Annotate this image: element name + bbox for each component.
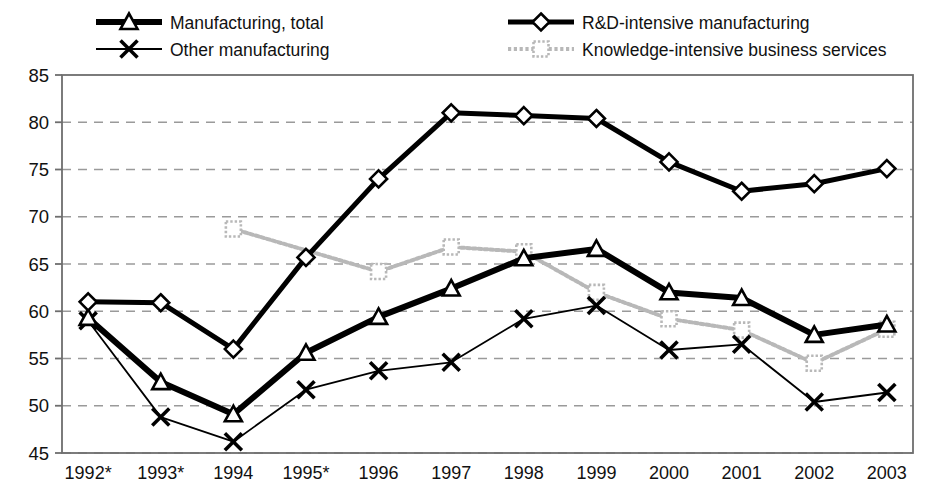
xtick-label-8: 2000 xyxy=(649,463,689,483)
data-point-marker xyxy=(371,264,386,279)
xtick-label-0: 1992* xyxy=(65,463,112,483)
ytick-label-65: 65 xyxy=(28,254,49,275)
data-point-marker xyxy=(534,42,549,57)
xtick-label-4: 1996 xyxy=(359,463,399,483)
ytick-label-50: 50 xyxy=(28,395,49,416)
data-point-marker xyxy=(226,222,241,237)
ytick-label-85: 85 xyxy=(28,65,49,86)
data-point-marker xyxy=(444,239,459,254)
chart-canvas: Manufacturing, totalOther manufacturingR… xyxy=(0,0,939,498)
xtick-label-2: 1994 xyxy=(213,463,253,483)
line-chart: Manufacturing, totalOther manufacturingR… xyxy=(0,0,939,498)
legend-label: Other manufacturing xyxy=(170,40,330,60)
ytick-label-70: 70 xyxy=(28,206,49,227)
xtick-label-1: 1993* xyxy=(137,463,184,483)
xtick-label-11: 2003 xyxy=(867,463,907,483)
xtick-label-3: 1995* xyxy=(282,463,329,483)
data-point-marker xyxy=(734,323,749,338)
xtick-label-7: 1999 xyxy=(576,463,616,483)
legend-label: R&D-intensive manufacturing xyxy=(582,13,810,33)
legend-label: Manufacturing, total xyxy=(170,13,324,33)
data-point-marker xyxy=(589,285,604,300)
legend-item-0: Manufacturing, total xyxy=(96,13,324,33)
ytick-label-80: 80 xyxy=(28,112,49,133)
ytick-label-75: 75 xyxy=(28,159,49,180)
ytick-label-45: 45 xyxy=(28,443,49,464)
ytick-label-60: 60 xyxy=(28,301,49,322)
ytick-label-55: 55 xyxy=(28,348,49,369)
data-point-marker xyxy=(807,356,822,371)
xtick-label-9: 2001 xyxy=(722,463,762,483)
data-point-marker xyxy=(662,311,677,326)
xtick-label-6: 1998 xyxy=(504,463,544,483)
xtick-label-5: 1997 xyxy=(431,463,471,483)
xtick-label-10: 2002 xyxy=(794,463,834,483)
legend-label: Knowledge-intensive business services xyxy=(582,40,887,60)
